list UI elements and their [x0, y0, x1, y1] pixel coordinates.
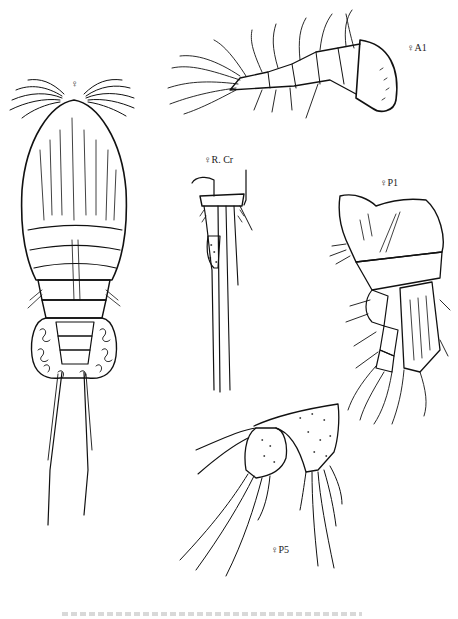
caudal-ramus-label: ♀R. Cr: [204, 154, 233, 165]
figure-plate: ♀ ♀A1 ♀R. Cr ♀P1 ♀P5: [0, 0, 458, 619]
caudal-ramus-drawing: [192, 170, 252, 392]
antennule-label: ♀A1: [407, 42, 427, 53]
leg1-label: ♀P1: [380, 177, 398, 188]
antennule-drawing: [168, 10, 397, 118]
leg5-drawing: [180, 404, 342, 576]
habitus-drawing: [10, 80, 134, 525]
leg5-label: ♀P5: [271, 544, 289, 555]
habitus-label: ♀: [71, 78, 79, 89]
leg1-drawing: [330, 195, 450, 424]
figure-caption-truncated: [62, 612, 362, 616]
illustration-canvas: [0, 0, 458, 619]
